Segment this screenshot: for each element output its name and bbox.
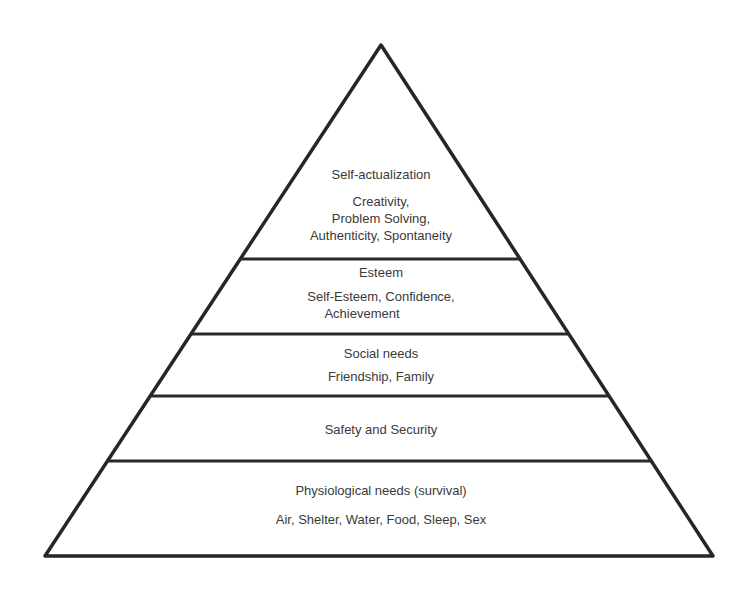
level-detail: Self-Esteem, Confidence,: [181, 289, 581, 304]
level-detail: Friendship, Family: [181, 369, 581, 384]
level-detail: Problem Solving,: [181, 211, 581, 226]
level-title: Self-actualization: [181, 167, 581, 182]
level-detail: Achievement: [162, 306, 562, 321]
level-detail: Authenticity, Spontaneity: [181, 228, 581, 243]
level-title: Social needs: [181, 346, 581, 361]
level-title: Physiological needs (survival): [181, 483, 581, 498]
level-detail: Air, Shelter, Water, Food, Sleep, Sex: [181, 512, 581, 527]
level-title: Safety and Security: [181, 422, 581, 437]
level-title: Esteem: [181, 265, 581, 280]
level-detail: Creativity,: [181, 194, 581, 209]
